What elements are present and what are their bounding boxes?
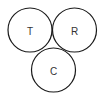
circle-c-label: C: [50, 66, 57, 77]
three-circle-diagram: T R C: [0, 0, 105, 102]
circle-r: R: [53, 8, 97, 52]
circle-r-label: R: [71, 26, 78, 37]
circle-c: C: [32, 48, 76, 92]
circle-t-label: T: [27, 26, 33, 37]
circle-t: T: [8, 8, 52, 52]
